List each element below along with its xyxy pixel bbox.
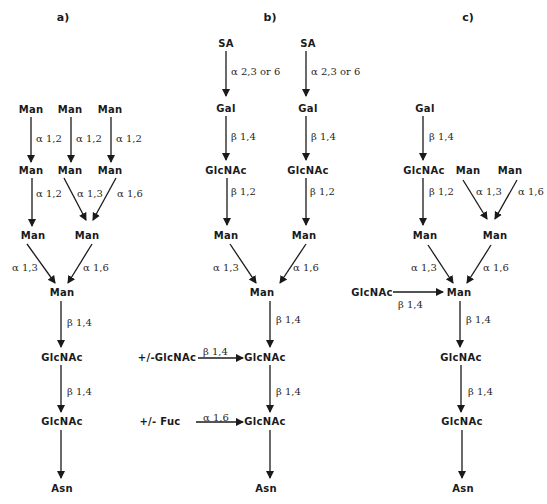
sugar-node-asn: Asn — [452, 483, 474, 494]
linkage-arrow — [64, 178, 86, 220]
sugar-node-asn: Asn — [255, 483, 277, 494]
linkage-label: α 1,6 — [83, 262, 109, 273]
linkage-label: β 1,2 — [310, 186, 335, 197]
panel-label: c) — [462, 11, 474, 24]
linkage-label: α 1,2 — [36, 133, 62, 144]
sugar-node-fuc: +/- Fuc — [139, 416, 180, 427]
sugar-node-glcnac: GlcNAc — [440, 352, 481, 363]
linkage-label: β 1,2 — [231, 186, 256, 197]
sugar-node-man: Man — [250, 287, 275, 298]
sugar-node-man: Man — [75, 230, 100, 241]
sugar-node-glcnac: GlcNAc — [244, 352, 285, 363]
linkage-label: β 1,4 — [231, 131, 256, 142]
linkage-label: α 1,6 — [483, 262, 509, 273]
linkage-label: α 2,3 or 6 — [311, 66, 360, 77]
panel-label: a) — [57, 11, 69, 24]
sugar-node-glcnac: GlcNAc — [205, 165, 246, 176]
sugar-node-glcnac: GlcNAc — [41, 352, 82, 363]
linkage-label: β 1,4 — [276, 314, 301, 325]
linkage-arrow — [93, 178, 116, 220]
linkage-label: α 1,6 — [293, 262, 319, 273]
sugar-node-man: Man — [413, 230, 438, 241]
sugar-node-glcnac: GlcNAc — [244, 416, 285, 427]
sugar-node-glcnac: GlcNAc — [351, 287, 392, 298]
linkage-label: β 1,4 — [67, 386, 92, 397]
linkage-label: β 1,4 — [429, 131, 454, 142]
sugar-node-man: Man — [19, 165, 44, 176]
panel-label: b) — [264, 11, 277, 24]
sugar-node-glcnac: GlcNAc — [287, 165, 328, 176]
sugar-node-gal: Gal — [415, 103, 434, 114]
sugar-node-sa: SA — [300, 38, 316, 49]
linkage-label: α 1,6 — [117, 188, 143, 199]
sugar-node-man: Man — [50, 287, 75, 298]
linkage-label: α 1,6 — [203, 412, 229, 423]
linkage-label: α 1,6 — [518, 186, 544, 197]
linkage-label: β 1,4 — [67, 317, 92, 328]
linkage-label: β 1,4 — [468, 386, 493, 397]
panel-b: b)α 2,3 or 6α 2,3 or 6β 1,4β 1,4β 1,2β 1… — [138, 11, 361, 494]
linkage-label: α 1,2 — [36, 188, 62, 199]
linkage-label: α 2,3 or 6 — [231, 66, 280, 77]
linkage-label: β 1,4 — [311, 131, 336, 142]
sugar-node-glcnac: +/-GlcNAc — [138, 352, 196, 363]
linkage-label: α 1,3 — [77, 188, 103, 199]
linkage-label: β 1,4 — [398, 299, 423, 310]
sugar-node-man: Man — [98, 104, 123, 115]
sugar-node-man: Man — [456, 165, 481, 176]
linkage-label: α 1,3 — [411, 262, 437, 273]
sugar-node-man: Man — [292, 230, 317, 241]
sugar-node-glcnac: GlcNAc — [41, 416, 82, 427]
linkage-label: α 1,3 — [12, 262, 38, 273]
sugar-node-man: Man — [483, 230, 508, 241]
linkage-label: β 1,4 — [203, 346, 228, 357]
sugar-node-man: Man — [21, 230, 46, 241]
linkage-label: β 1,4 — [466, 314, 491, 325]
sugar-node-man: Man — [447, 287, 472, 298]
sugar-node-gal: Gal — [216, 103, 235, 114]
linkage-label: β 1,4 — [276, 386, 301, 397]
sugar-node-man: Man — [98, 165, 123, 176]
linkage-label: α 1,2 — [76, 133, 102, 144]
sugar-node-glcnac: GlcNAc — [441, 416, 482, 427]
glycan-structures-diagram: a)α 1,2α 1,2α 1,2α 1,2α 1,3α 1,6α 1,3α 1… — [0, 0, 547, 504]
sugar-node-man: Man — [58, 165, 83, 176]
linkage-label: α 1,3 — [476, 186, 502, 197]
panel-c: c)β 1,4β 1,2α 1,3α 1,6α 1,3α 1,6β 1,4β 1… — [351, 11, 544, 494]
linkage-label: α 1,2 — [116, 133, 142, 144]
sugar-node-asn: Asn — [51, 483, 73, 494]
sugar-node-sa: SA — [218, 38, 234, 49]
sugar-node-man: Man — [498, 165, 523, 176]
sugar-node-gal: Gal — [298, 103, 317, 114]
sugar-node-man: Man — [58, 104, 83, 115]
linkage-label: β 1,2 — [429, 186, 454, 197]
sugar-node-man: Man — [19, 104, 44, 115]
panel-a: a)α 1,2α 1,2α 1,2α 1,2α 1,3α 1,6α 1,3α 1… — [12, 11, 143, 494]
sugar-node-glcnac: GlcNAc — [403, 165, 444, 176]
linkage-label: α 1,3 — [213, 262, 239, 273]
sugar-node-man: Man — [214, 230, 239, 241]
